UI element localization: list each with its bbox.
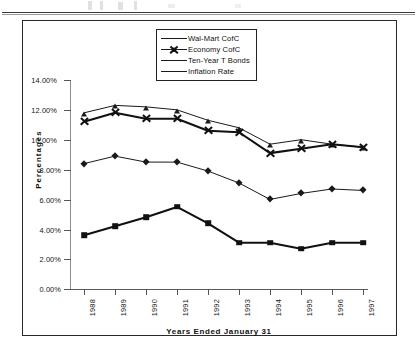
x-cross-icon bbox=[111, 108, 120, 117]
data-point bbox=[81, 161, 86, 166]
square-icon bbox=[81, 232, 87, 238]
series-line-1 bbox=[84, 113, 363, 153]
diamond-icon bbox=[142, 158, 149, 165]
legend-entry-economy-cofc: Economy CofC bbox=[161, 44, 250, 55]
data-point bbox=[81, 232, 87, 238]
legend-entry-ten-year-t-bonds: Ten-Year T Bonds bbox=[161, 55, 250, 66]
triangle-icon bbox=[81, 111, 87, 116]
x-cross-icon bbox=[266, 149, 275, 158]
diamond-icon bbox=[111, 152, 118, 159]
legend-label-ten-year-t-bonds: Ten-Year T Bonds bbox=[187, 55, 250, 66]
data-point bbox=[235, 128, 244, 137]
x-cross-icon bbox=[142, 114, 151, 123]
legend-swatch-inflation-rate bbox=[161, 66, 187, 77]
x-cross-icon bbox=[359, 143, 368, 152]
diamond-icon bbox=[80, 160, 87, 167]
triangle-icon bbox=[298, 138, 304, 143]
diamond-icon bbox=[235, 179, 242, 186]
diamond-icon bbox=[204, 167, 211, 174]
series-line-0 bbox=[84, 105, 363, 147]
data-point bbox=[298, 191, 303, 196]
data-point bbox=[142, 114, 151, 123]
x-cross-icon bbox=[80, 117, 89, 126]
data-point bbox=[143, 215, 149, 221]
data-point bbox=[111, 108, 120, 117]
square-icon bbox=[298, 246, 304, 252]
diamond-icon bbox=[173, 158, 180, 165]
data-point bbox=[174, 160, 179, 165]
triangle-icon bbox=[143, 105, 149, 110]
data-point bbox=[81, 111, 87, 116]
data-point bbox=[329, 240, 335, 246]
square-icon bbox=[112, 224, 118, 230]
legend-entry-inflation-rate: Inflation Rate bbox=[161, 66, 250, 77]
diamond-icon bbox=[328, 185, 335, 192]
x-cross-icon bbox=[297, 144, 306, 153]
data-point bbox=[359, 143, 368, 152]
data-point bbox=[297, 144, 306, 153]
square-icon bbox=[267, 240, 273, 246]
legend-swatch-ten-year-t-bonds bbox=[161, 55, 187, 66]
data-point bbox=[298, 138, 304, 143]
triangle-icon bbox=[174, 108, 180, 113]
data-point bbox=[298, 246, 304, 252]
data-point bbox=[205, 119, 211, 124]
data-point bbox=[112, 154, 117, 159]
legend-label-economy-cofc: Economy CofC bbox=[187, 44, 240, 55]
x-cross-icon bbox=[328, 140, 337, 149]
triangle-icon bbox=[205, 119, 211, 124]
data-point bbox=[205, 168, 210, 173]
data-point bbox=[236, 180, 241, 185]
chart-figure-frame: Percentages 0.00% 2.00% 4.00% 6.00% 8.00… bbox=[22, 20, 397, 336]
data-point bbox=[173, 114, 182, 123]
x-cross-icon bbox=[235, 128, 244, 137]
data-point bbox=[205, 221, 211, 227]
data-point bbox=[204, 126, 213, 135]
square-icon bbox=[143, 215, 149, 221]
legend-label-wal-mart-cofc: Wal-Mart CofC bbox=[187, 33, 239, 44]
page-header-rule-secondary bbox=[2, 14, 415, 15]
diamond-icon bbox=[359, 187, 366, 194]
square-icon bbox=[174, 204, 180, 210]
diamond-icon bbox=[266, 196, 273, 203]
legend-swatch-economy-cofc bbox=[161, 44, 187, 55]
x-cross-icon bbox=[173, 114, 182, 123]
square-icon bbox=[329, 240, 335, 246]
series-line-2 bbox=[84, 156, 363, 199]
legend-swatch-wal-mart-cofc bbox=[161, 33, 187, 44]
data-point bbox=[266, 149, 275, 158]
data-point bbox=[329, 186, 334, 191]
chart-legend: Wal-Mart CofC Economy CofC Ten-Year T Bo… bbox=[156, 29, 257, 81]
data-point bbox=[328, 140, 337, 149]
legend-label-inflation-rate: Inflation Rate bbox=[187, 66, 234, 77]
data-point bbox=[236, 240, 242, 246]
data-point bbox=[267, 143, 273, 148]
square-icon bbox=[236, 240, 242, 246]
data-point bbox=[80, 117, 89, 126]
triangle-icon bbox=[267, 143, 273, 148]
legend-entry-wal-mart-cofc: Wal-Mart CofC bbox=[161, 33, 250, 44]
data-point bbox=[174, 108, 180, 113]
data-point bbox=[360, 240, 366, 246]
square-icon bbox=[360, 240, 366, 246]
diamond-icon bbox=[297, 190, 304, 197]
data-point bbox=[112, 224, 118, 230]
data-point bbox=[267, 197, 272, 202]
page-header-rule bbox=[2, 12, 415, 13]
data-point bbox=[174, 204, 180, 210]
data-point bbox=[267, 240, 273, 246]
series-line-3 bbox=[84, 207, 363, 249]
data-point bbox=[143, 105, 149, 110]
x-cross-icon bbox=[204, 126, 213, 135]
data-point bbox=[360, 188, 365, 193]
square-icon bbox=[205, 221, 211, 227]
data-point bbox=[143, 160, 148, 165]
